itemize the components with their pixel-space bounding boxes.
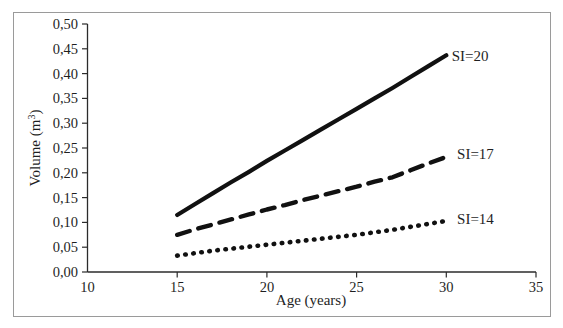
y-tick-label: 0,50 (53, 16, 78, 32)
series-line-si-14 (177, 221, 446, 256)
series-label-si-14: SI=14 (457, 211, 494, 227)
y-tick-label: 0,05 (53, 239, 78, 255)
y-tick-label: 0,10 (53, 214, 78, 230)
x-tick-label: 15 (170, 279, 185, 295)
series-line-si-20 (177, 55, 446, 215)
x-tick-label: 20 (260, 279, 275, 295)
y-tick-label: 0,20 (53, 165, 78, 181)
data-series-group (177, 55, 446, 255)
x-tick-marks (177, 272, 536, 278)
y-tick-labels: 0,000,050,100,150,200,250,300,350,400,45… (53, 16, 78, 280)
y-tick-label: 0,25 (53, 140, 78, 156)
svg-text:Volume (m3): Volume (m3) (26, 110, 45, 187)
series-line-si-17 (177, 157, 446, 235)
y-tick-marks (82, 24, 88, 272)
x-tick-label: 30 (439, 279, 454, 295)
y-tick-label: 0,00 (53, 264, 78, 280)
series-label-si-20: SI=20 (452, 48, 489, 64)
x-tick-label: 25 (349, 279, 364, 295)
line-chart: 0,000,050,100,150,200,250,300,350,400,45… (0, 0, 563, 328)
y-tick-label: 0,40 (53, 66, 78, 82)
x-axis-title: Age (years) (276, 292, 346, 309)
y-tick-label: 0,15 (53, 190, 78, 206)
x-tick-label: 10 (80, 279, 95, 295)
y-tick-label: 0,30 (53, 115, 78, 131)
series-label-si-17: SI=17 (457, 146, 494, 162)
series-annotations: SI=20SI=17SI=14 (452, 48, 495, 227)
y-tick-label: 0,35 (53, 90, 78, 106)
y-axis-title: Volume (m3) (26, 110, 45, 187)
x-tick-label: 35 (529, 279, 544, 295)
y-tick-label: 0,45 (53, 41, 78, 57)
